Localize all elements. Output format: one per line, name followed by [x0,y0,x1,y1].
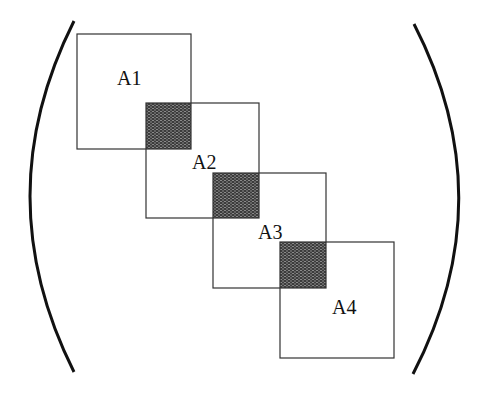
label-a1: A1 [117,67,141,89]
label-a3: A3 [258,221,282,243]
block-matrix-diagram: A1 A2 A3 A4 [0,0,480,397]
label-a2: A2 [192,151,216,173]
overlap-regions [146,103,326,288]
overlap-a3-a4 [280,242,326,288]
overlap-a1-a2 [146,103,191,149]
overlap-a2-a3 [213,173,259,218]
left-parenthesis [30,21,74,372]
label-a4: A4 [332,296,356,318]
right-parenthesis [413,24,459,374]
